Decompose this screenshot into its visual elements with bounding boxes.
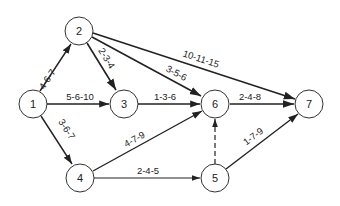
node-2: 2 (65, 17, 93, 45)
edge-label-5-7: 1-7-9 (241, 125, 265, 147)
node-label-4: 4 (77, 172, 83, 184)
network-diagram: 4-6-7 5-6-10 3-6-7 2-3-4 3-5-6 10-11-15 … (0, 0, 340, 206)
node-label-6: 6 (212, 98, 218, 110)
node-label-2: 2 (76, 25, 82, 37)
edge-label-2-7: 10-11-15 (182, 48, 221, 70)
node-3: 3 (110, 90, 138, 118)
edge-2-7 (93, 33, 295, 99)
edge-label-2-6: 3-5-6 (164, 63, 189, 83)
edge-label-6-7: 2-4-8 (239, 91, 261, 102)
edge-5-7 (226, 114, 298, 169)
edge-label-4-5: 2-4-5 (137, 165, 159, 176)
node-1: 1 (19, 90, 47, 118)
node-label-5: 5 (212, 172, 218, 184)
node-7: 7 (295, 90, 323, 118)
edge-label-4-6: 4-7-9 (122, 129, 147, 149)
edge-4-6 (93, 111, 202, 171)
edge-label-3-6: 1-3-6 (154, 91, 176, 102)
edge-label-1-2: 4-6-7 (36, 67, 57, 92)
node-label-1: 1 (30, 98, 36, 110)
node-label-7: 7 (306, 98, 312, 110)
node-label-3: 3 (121, 98, 127, 110)
node-6: 6 (201, 90, 229, 118)
edges (40, 33, 298, 178)
node-4: 4 (66, 164, 94, 192)
edge-label-1-4: 3-6-7 (56, 117, 77, 142)
edge-labels: 4-6-7 5-6-10 3-6-7 2-3-4 3-5-6 10-11-15 … (36, 46, 265, 176)
node-5: 5 (201, 164, 229, 192)
edge-label-1-3: 5-6-10 (66, 91, 93, 102)
